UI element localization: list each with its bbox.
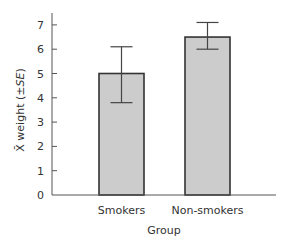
y-tick-label: 2 xyxy=(37,140,44,153)
bar-chart: 01234567 SmokersNon-smokers Group X̄ wei… xyxy=(0,0,291,248)
y-tick-label: 1 xyxy=(37,165,44,178)
bar-non-smokers xyxy=(185,37,230,195)
x-tick-label: Non-smokers xyxy=(171,204,243,217)
y-axis-ticks: 01234567 xyxy=(37,19,57,202)
x-axis-title: Group xyxy=(147,224,181,237)
y-tick-label: 7 xyxy=(37,19,44,32)
y-axis-title-text: weight (± xyxy=(14,87,27,145)
x-tick-label: Smokers xyxy=(98,204,146,217)
y-axis-title-close: ) xyxy=(14,68,27,72)
y-axis-title-italic: SE xyxy=(14,73,27,87)
y-tick-label: 0 xyxy=(37,189,44,202)
y-tick-label: 5 xyxy=(37,68,44,81)
x-tick-labels: SmokersNon-smokers xyxy=(98,204,244,217)
bars xyxy=(99,37,230,195)
y-tick-label: 6 xyxy=(37,43,44,56)
y-tick-label: 4 xyxy=(37,92,44,105)
y-tick-label: 3 xyxy=(37,116,44,129)
y-axis-title: X̄ weight (±SE) xyxy=(14,68,27,151)
